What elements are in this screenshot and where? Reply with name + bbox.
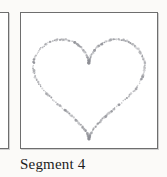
figure-root: Segment 4 — [0, 0, 167, 177]
heart-contour-plot — [21, 13, 157, 148]
panel-partial-left — [0, 12, 9, 149]
heart-outline-icon — [21, 13, 157, 148]
figure-caption: Segment 4 — [20, 153, 158, 175]
panel-segment-4 — [20, 12, 158, 149]
